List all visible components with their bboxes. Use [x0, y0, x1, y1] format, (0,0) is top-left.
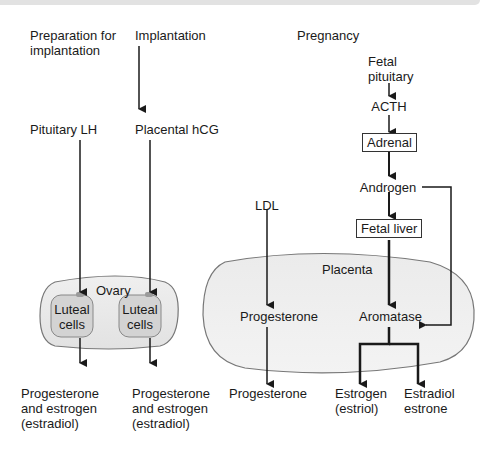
label-placenta: Placenta	[322, 262, 373, 277]
box-fetal-liver: Fetal liver	[356, 219, 422, 238]
output-progesterone: Progesterone	[229, 386, 307, 401]
diagram-canvas	[0, 0, 497, 452]
box-adrenal: Adrenal	[362, 133, 417, 152]
label-pituitary-lh: Pituitary LH	[30, 122, 97, 137]
label-aromatase: Aromatase	[359, 309, 422, 324]
output-implantation: Progesterone and estrogen (estradiol)	[132, 386, 210, 431]
label-androgen: Androgen	[352, 180, 424, 195]
label-fetal-pituitary: Fetal pituitary	[368, 54, 414, 84]
output-estradiol-estrone: Estradiol estrone	[404, 386, 455, 416]
header-preparation-for-implantation: Preparation for implantation	[30, 28, 116, 58]
label-ovary: Ovary	[96, 283, 131, 298]
label-ldl: LDL	[255, 198, 279, 213]
output-estrogen-estriol: Estrogen (estriol)	[335, 386, 387, 416]
label-acth: ACTH	[362, 99, 416, 114]
label-placental-hcg: Placental hCG	[135, 122, 219, 137]
header-implantation: Implantation	[135, 28, 206, 43]
label-luteal-cells-right: Luteal cells	[119, 302, 161, 332]
output-preparation: Progesterone and estrogen (estradiol)	[21, 386, 99, 431]
label-luteal-cells-left: Luteal cells	[51, 302, 93, 332]
label-progesterone-inner: Progesterone	[240, 309, 318, 324]
header-pregnancy: Pregnancy	[297, 28, 359, 43]
